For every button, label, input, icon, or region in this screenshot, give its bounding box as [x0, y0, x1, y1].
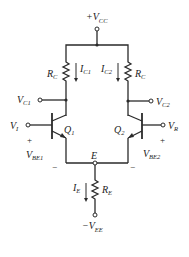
rc-left-label: RC	[46, 68, 58, 80]
vi-label: VI	[10, 120, 19, 132]
vi-terminal[interactable]	[26, 123, 30, 127]
re-label: RE	[101, 184, 112, 196]
differential-amplifier-diagram: +VCC RC IC1 RC IC2 VC1 VC2	[0, 0, 189, 257]
vee-label: −VEE	[82, 220, 103, 233]
vbe1-minus: −	[52, 162, 57, 172]
q2-collector	[128, 115, 142, 121]
e-node-label: E	[90, 150, 97, 161]
rc-right-label: RC	[134, 68, 146, 80]
vc1-terminal[interactable]	[38, 98, 42, 102]
vee-terminal[interactable]	[93, 213, 97, 217]
ic1-arrowhead	[74, 78, 78, 82]
vbe2-label: VBE2	[143, 148, 161, 160]
q2-label: Q2	[114, 124, 125, 136]
q2-transistor	[128, 113, 142, 163]
ie-arrowhead	[84, 198, 88, 202]
re-resistor	[92, 178, 98, 201]
top-rail	[66, 45, 128, 60]
vbe1-label: VBE1	[26, 149, 43, 161]
e-node[interactable]	[93, 161, 97, 165]
vc1-label: VC1	[17, 94, 31, 106]
rc-right-resistor	[125, 60, 131, 84]
ic2-label: IC2	[100, 63, 113, 75]
vbe2-plus: +	[160, 135, 165, 145]
vc2-terminal[interactable]	[149, 99, 153, 103]
ic1-label: IC1	[79, 63, 91, 75]
vc2-label: VC2	[156, 96, 170, 108]
vbe2-minus: −	[130, 162, 135, 172]
vr-terminal[interactable]	[161, 123, 165, 127]
ic2-arrowhead	[116, 78, 120, 82]
vbe1-plus: +	[27, 135, 32, 145]
q1-label: Q1	[64, 124, 74, 136]
vc2-junction	[126, 99, 129, 102]
vcc-terminal[interactable]	[95, 27, 99, 31]
rc-left-resistor	[63, 60, 69, 84]
vr-label: VR	[168, 120, 178, 132]
vc1-junction	[64, 98, 67, 101]
vcc-label: +VCC	[86, 11, 108, 24]
q1-transistor	[52, 113, 66, 163]
ie-label: IE	[72, 182, 80, 194]
q1-collector	[52, 115, 66, 121]
q2-emitter-arrow	[128, 133, 134, 138]
